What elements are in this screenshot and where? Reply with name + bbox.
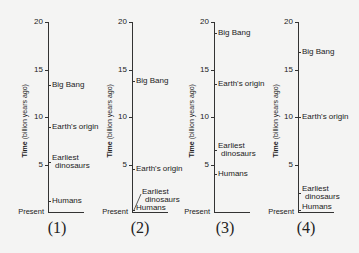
axis-tick xyxy=(211,117,214,118)
axis-tick xyxy=(129,70,132,71)
axis-tick xyxy=(211,22,214,23)
event-tick xyxy=(298,210,301,211)
event-label-humans: Humans xyxy=(52,197,82,205)
event-tick xyxy=(298,52,301,53)
event-label-line1: Earth's origin xyxy=(52,122,98,131)
event-tick xyxy=(298,193,301,194)
event-label-line1: Earth's origin xyxy=(136,164,182,173)
event-label-earth-s-origin: Earth's origin xyxy=(218,80,264,88)
axis-tick xyxy=(295,22,298,23)
axis-tick-label: 5 xyxy=(107,161,127,169)
panel-label: (3) xyxy=(205,219,245,237)
axis-tick xyxy=(129,165,132,166)
axis-tick-label: 15 xyxy=(189,66,209,74)
present-label: Present xyxy=(170,208,210,216)
event-label-earliest-dinosaurs: Earliestdinosaurs xyxy=(302,185,340,201)
axis-tick xyxy=(295,70,298,71)
event-label-humans: Humans xyxy=(302,203,332,211)
axis-tick-label: 20 xyxy=(23,18,43,26)
axis-tick xyxy=(211,165,214,166)
event-label-line2: dinosaurs xyxy=(218,150,256,158)
panel-label: (1) xyxy=(37,219,77,237)
axis-tick-label: 5 xyxy=(189,161,209,169)
event-label-line1: Humans xyxy=(218,169,248,178)
event-label-line1: Humans xyxy=(52,196,82,205)
present-baseline xyxy=(132,212,168,213)
event-label-line1: Humans xyxy=(136,203,166,212)
event-label-big-bang: Big Bang xyxy=(302,48,334,56)
event-tick xyxy=(48,162,51,163)
timeline-diagram: Time (billion years ago) Present (1) 201… xyxy=(0,0,359,253)
present-baseline xyxy=(48,212,84,213)
axis-tick xyxy=(45,70,48,71)
axis-tick xyxy=(45,117,48,118)
event-tick xyxy=(214,33,217,34)
present-label: Present xyxy=(254,208,294,216)
event-tick xyxy=(132,81,135,82)
event-label-big-bang: Big Bang xyxy=(52,81,84,89)
event-label-line1: Earth's origin xyxy=(218,79,264,88)
event-label-earth-s-origin: Earth's origin xyxy=(302,113,348,121)
axis-tick-label: 10 xyxy=(107,113,127,121)
present-baseline xyxy=(298,212,334,213)
event-tick xyxy=(132,212,135,213)
axis-tick-label: 5 xyxy=(23,161,43,169)
axis-tick-label: 20 xyxy=(273,18,293,26)
y-axis-title-bold: Time xyxy=(188,141,195,157)
panel-label: (2) xyxy=(120,219,160,237)
axis-tick-label: 10 xyxy=(273,113,293,121)
event-label-line1: Big Bang xyxy=(302,47,334,56)
event-label-humans: Humans xyxy=(218,170,248,178)
event-label-line2: dinosaurs xyxy=(52,162,90,170)
axis-tick-label: 5 xyxy=(273,161,293,169)
axis-tick xyxy=(295,165,298,166)
event-label-line1: Big Bang xyxy=(218,28,250,37)
event-tick xyxy=(48,127,51,128)
event-label-line1: Big Bang xyxy=(136,76,168,85)
event-label-earliest-dinosaurs: Earliestdinosaurs xyxy=(52,154,90,170)
y-axis-line xyxy=(48,22,49,212)
axis-tick xyxy=(45,22,48,23)
axis-tick xyxy=(129,117,132,118)
present-label: Present xyxy=(88,208,128,216)
y-axis-title-bold: Time xyxy=(272,141,279,157)
axis-tick xyxy=(45,165,48,166)
event-label-line1: Earth's origin xyxy=(302,112,348,121)
axis-tick-label: 10 xyxy=(189,113,209,121)
event-label-earliest-dinosaurs: Earliestdinosaurs xyxy=(218,142,256,158)
event-tick xyxy=(214,150,217,151)
present-label: Present xyxy=(4,208,44,216)
event-label-big-bang: Big Bang xyxy=(136,77,168,85)
axis-tick-label: 15 xyxy=(273,66,293,74)
event-label-earth-s-origin: Earth's origin xyxy=(52,123,98,131)
axis-tick-label: 20 xyxy=(189,18,209,26)
event-label-humans: Humans xyxy=(136,204,166,212)
axis-tick-label: 10 xyxy=(23,113,43,121)
axis-tick xyxy=(129,22,132,23)
y-axis-line xyxy=(214,22,215,212)
event-label-big-bang: Big Bang xyxy=(218,29,250,37)
event-tick xyxy=(214,84,217,85)
y-axis-title-bold: Time xyxy=(106,141,113,157)
event-label-earliest-dinosaurs: Earliestdinosaurs xyxy=(142,188,180,204)
event-label-line2: dinosaurs xyxy=(302,193,340,201)
present-baseline xyxy=(214,212,250,213)
event-tick xyxy=(132,169,135,170)
event-tick xyxy=(48,85,51,86)
event-tick xyxy=(48,201,51,202)
event-tick xyxy=(298,117,301,118)
axis-tick xyxy=(211,70,214,71)
event-label-earth-s-origin: Earth's origin xyxy=(136,165,182,173)
y-axis-line xyxy=(132,22,133,212)
axis-tick-label: 15 xyxy=(107,66,127,74)
event-label-line1: Humans xyxy=(302,202,332,211)
panel-label: (4) xyxy=(286,219,326,237)
event-label-line1: Big Bang xyxy=(52,80,84,89)
axis-tick-label: 20 xyxy=(107,18,127,26)
axis-tick-label: 15 xyxy=(23,66,43,74)
y-axis-title-bold: Time xyxy=(21,141,28,157)
event-tick xyxy=(214,174,217,175)
